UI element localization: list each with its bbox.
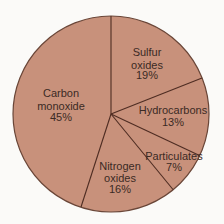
- label-line: Sulfur: [133, 46, 162, 58]
- label-value: 13%: [162, 116, 184, 128]
- label-line: Nitrogen: [99, 160, 141, 172]
- label-line: Carbon: [43, 87, 79, 99]
- label-line: Hydrocarbons: [139, 104, 208, 116]
- pie-chart: Sulfur oxides 19% Hydrocarbons 13% Parti…: [0, 0, 224, 224]
- label-value: 16%: [109, 183, 131, 195]
- label-value: 45%: [50, 111, 72, 123]
- label-value: 19%: [136, 69, 158, 81]
- label-value: 7%: [166, 161, 182, 173]
